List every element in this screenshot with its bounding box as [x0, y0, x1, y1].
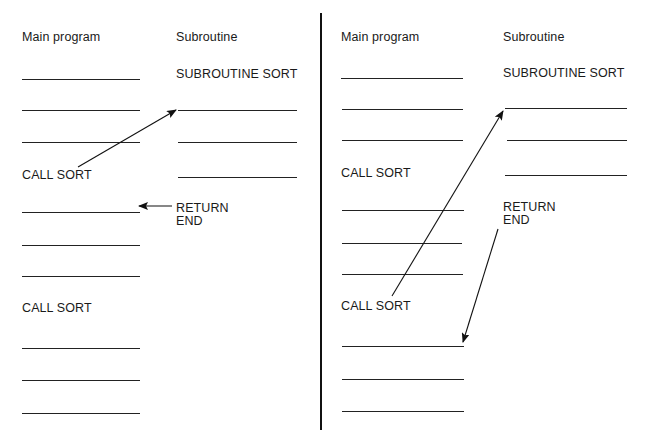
right-return-arrow	[463, 229, 498, 342]
flow-arrows	[0, 0, 648, 443]
left-call-arrow	[78, 110, 176, 167]
